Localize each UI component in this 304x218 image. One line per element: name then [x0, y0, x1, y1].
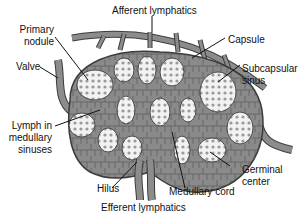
label-germinal-line2: center: [242, 176, 270, 187]
label-primary-nodule-line1: Primary: [14, 24, 54, 35]
label-germinal-line1: Germinal: [242, 164, 283, 175]
label-lymph-line1: Lymph in: [0, 120, 52, 131]
label-subcapsular-line2: sinus: [242, 75, 265, 86]
label-lymph-line2: medullary: [0, 132, 52, 143]
label-efferent-lymphatics: Efferent lymphatics: [101, 202, 186, 213]
label-medullary-cord: Medullary cord: [169, 186, 235, 197]
label-afferent-lymphatics: Afferent lymphatics: [112, 5, 197, 16]
label-capsule: Capsule: [228, 34, 265, 45]
label-subcapsular-line1: Subcapsular: [242, 63, 298, 74]
label-primary-nodule-line2: nodule: [14, 36, 54, 47]
label-hilus: Hilus: [97, 183, 119, 194]
lymph-node-diagram: Afferent lymphatics Primary nodule Valve…: [0, 0, 304, 218]
label-valve: Valve: [16, 61, 40, 72]
label-lymph-line3: sinuses: [0, 144, 52, 155]
